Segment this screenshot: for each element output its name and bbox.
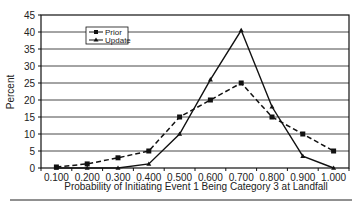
x-axis-label: Probability of Initiating Event 1 Being … [64, 181, 328, 192]
square-marker-icon [208, 98, 213, 103]
square-marker-icon [300, 132, 305, 137]
y-tick-label: 30 [24, 61, 36, 72]
y-tick-label: 20 [24, 95, 36, 106]
legend-update-label: Update [105, 36, 131, 45]
square-marker-icon [94, 30, 98, 34]
y-tick-label: 0 [29, 163, 35, 174]
series-prior-line [56, 83, 333, 167]
chart: 051015202530354045 0.1000.2000.3000.4000… [0, 0, 358, 206]
triangle-marker-icon [270, 104, 275, 108]
y-axis-label: Percent [5, 75, 16, 110]
square-marker-icon [146, 149, 151, 154]
y-tick-label: 40 [24, 27, 36, 38]
series-update-line [56, 30, 333, 168]
y-tick-label: 10 [24, 129, 36, 140]
square-marker-icon [331, 149, 336, 154]
square-marker-icon [270, 115, 275, 120]
square-marker-icon [239, 81, 244, 86]
y-tick-label: 45 [24, 10, 36, 21]
y-tick-label: 25 [24, 78, 36, 89]
y-axis-ticks: 051015202530354045 [24, 10, 41, 174]
y-tick-label: 5 [29, 146, 35, 157]
y-tick-label: 35 [24, 44, 36, 55]
square-marker-icon [177, 115, 182, 120]
y-tick-label: 15 [24, 112, 36, 123]
legend: Prior Update [86, 27, 131, 45]
square-marker-icon [116, 155, 121, 160]
triangle-marker-icon [239, 28, 244, 32]
